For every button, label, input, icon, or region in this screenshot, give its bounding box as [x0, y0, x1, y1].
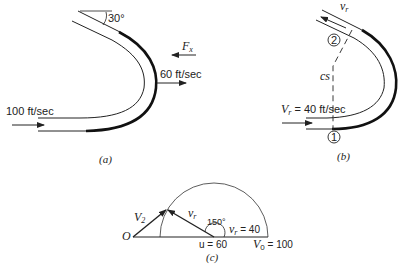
vane-thick-surface	[86, 32, 156, 131]
caption-b: (b)	[337, 150, 350, 163]
outlet-velocity-label: 60 ft/sec	[160, 68, 202, 80]
angle-150-label: 150°	[207, 217, 226, 227]
angle-arc	[103, 12, 107, 25]
u-label: u = 60	[199, 239, 228, 250]
figure-b: vr 2 cs Vr = 40 ft/sec 1 (b)	[281, 0, 396, 163]
control-surface-label: cs	[320, 69, 330, 83]
vane-inner-edge	[38, 21, 144, 118]
angle-label-a: 30°	[108, 12, 125, 24]
vr-value-label: vr = 40	[229, 222, 260, 237]
relative-velocity-label-top: vr	[340, 0, 349, 14]
inlet-relative-velocity-label: Vr = 40 ft/sec	[281, 102, 346, 117]
figure-a: 30° Fx 60 ft/sec 100 ft/sec (a)	[6, 11, 202, 166]
v2-label: V2	[134, 210, 145, 225]
v0-label: V0 = 100	[253, 237, 293, 252]
figure-c-velocity-diagram: O V2 vr 150° vr = 40 u = 60 V0 = 100 (c)	[122, 183, 293, 264]
caption-a: (a)	[99, 153, 112, 166]
caption-c: (c)	[206, 251, 219, 264]
vane-diagram: 30° Fx 60 ft/sec 100 ft/sec (a) vr 2 cs	[0, 0, 407, 268]
force-label: Fx	[181, 39, 193, 54]
vane-outer-edge	[38, 11, 156, 131]
relative-velocity-arrow-top	[321, 17, 346, 28]
inlet-velocity-label: 100 ft/sec	[6, 105, 54, 117]
origin-label: O	[122, 229, 131, 243]
section-2-label: 2	[331, 34, 337, 46]
section-1-label: 1	[331, 131, 337, 143]
vr-label: vr	[188, 206, 197, 221]
